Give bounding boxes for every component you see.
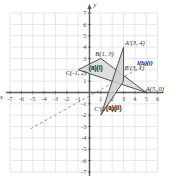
svg-text:5: 5 (145, 95, 148, 102)
svg-text:-6: -6 (19, 95, 24, 102)
svg-text:1: 1 (83, 77, 86, 84)
svg-text:-4: -4 (42, 95, 47, 102)
svg-text:4: 4 (83, 43, 86, 50)
axis-labels: xy (0, 1, 97, 99)
svg-text:-6: -6 (81, 157, 86, 164)
svg-text:x: x (0, 93, 3, 100)
svg-text:-7: -7 (81, 168, 86, 175)
svg-text:C(-1, 2): C(-1, 2) (66, 69, 87, 77)
svg-text:-1: -1 (81, 100, 86, 107)
svg-text:6: 6 (83, 21, 86, 28)
svg-text:y: y (93, 1, 97, 8)
svg-text:l(b)(i): l(b)(i) (137, 59, 152, 66)
svg-text:-2: -2 (81, 111, 86, 118)
svg-text:-5: -5 (81, 145, 86, 152)
svg-text:-5: -5 (30, 95, 35, 102)
svg-text:-4: -4 (81, 134, 86, 141)
svg-text:6: 6 (156, 95, 159, 102)
svg-text:3: 3 (83, 55, 86, 62)
svg-text:-2: -2 (64, 95, 69, 102)
svg-text:1: 1 (99, 95, 102, 102)
svg-text:5: 5 (83, 32, 86, 39)
svg-text:-3: -3 (81, 123, 86, 130)
svg-text:B(1, 3): B(1, 3) (95, 50, 113, 58)
svg-text:-7: -7 (7, 95, 12, 102)
svg-text:3: 3 (122, 95, 125, 102)
svg-text:(a)(i): (a)(i) (89, 64, 103, 72)
svg-text:7: 7 (83, 9, 86, 16)
svg-text:A(5, 0): A(5, 0) (145, 85, 164, 93)
svg-text:(a)(ii): (a)(ii) (106, 104, 122, 112)
figure-canvas: xy-7-6-5-4-3-2-11234567654321-1-2-3-4-5-… (0, 0, 188, 185)
coordinate-plot: xy-7-6-5-4-3-2-11234567654321-1-2-3-4-5-… (0, 0, 188, 185)
svg-text:-3: -3 (53, 95, 58, 102)
svg-text:A'(3, 4): A'(3, 4) (124, 39, 145, 47)
svg-text:4: 4 (133, 95, 136, 102)
